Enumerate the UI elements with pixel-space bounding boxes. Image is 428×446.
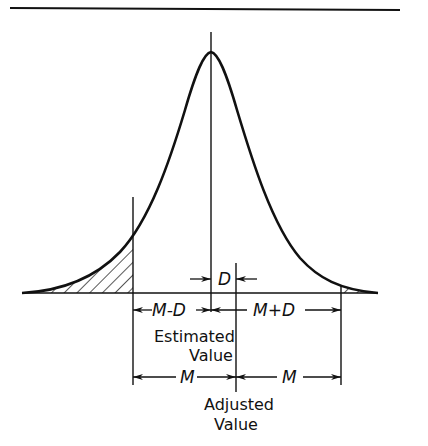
- normal-distribution-diagram: D M-D M+D Estimated Value M M Adjusted V…: [0, 0, 428, 446]
- m-plus-d-label: M+D: [253, 300, 295, 320]
- adjusted-value-label-line1: Adjusted: [204, 395, 274, 414]
- m-minus-d-label: M-D: [152, 300, 186, 320]
- estimated-value-label-line1: Estimated: [154, 327, 235, 346]
- left-tail-hatched-area: [22, 232, 133, 293]
- estimated-value-label-line2: Value: [189, 346, 233, 365]
- bell-curve: [22, 52, 378, 293]
- d-label: D: [218, 269, 231, 289]
- m-right-label: M: [282, 367, 297, 387]
- adjusted-value-label-line2: Value: [214, 415, 258, 434]
- m-left-label: M: [180, 367, 195, 387]
- top-rule: [10, 8, 400, 10]
